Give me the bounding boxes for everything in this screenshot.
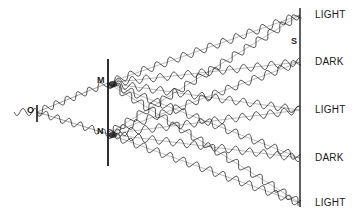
double-slit-diagram: O M N S LIGHT DARK LIGHT DARK LIGHT <box>0 0 360 219</box>
slit-n-label: N <box>97 127 104 136</box>
fringe-label-3: LIGHT <box>315 105 345 115</box>
source-label: O <box>27 106 34 115</box>
ray-m-4 <box>108 83 300 203</box>
fringe-label-2: DARK <box>315 57 344 67</box>
fringe-label-1: LIGHT <box>315 10 345 20</box>
fringe-label-4: DARK <box>315 153 344 163</box>
fringe-label-5: LIGHT <box>315 198 345 208</box>
ray-m-2 <box>108 83 300 110</box>
ray-n-4 <box>108 134 300 203</box>
wave-o-m <box>37 83 109 115</box>
wave-paths <box>0 0 360 219</box>
slit-m-label: M <box>97 76 105 85</box>
screen-label: S <box>291 37 297 46</box>
